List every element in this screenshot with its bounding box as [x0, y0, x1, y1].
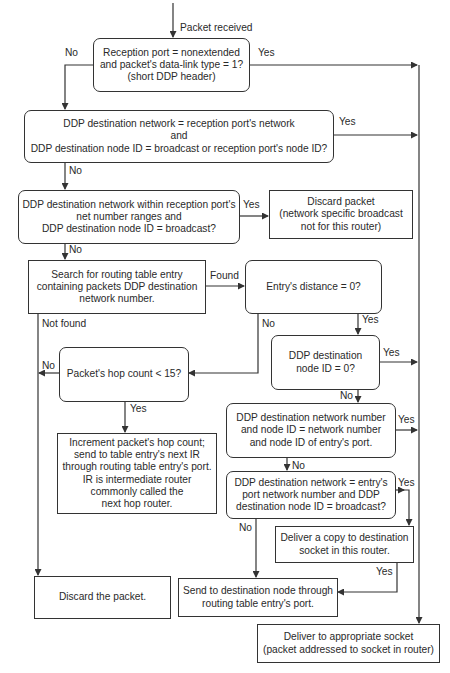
reception-port-check-node: Reception port = nonextended and packet'…: [93, 38, 250, 92]
edge-label-hop-yes: Yes: [130, 403, 147, 415]
edge-label-search-not-found: Not found: [42, 318, 86, 330]
entry-distance-check-node: Entry's distance = 0?: [245, 260, 382, 314]
deliver-copy-node: Deliver a copy to destination socket in …: [275, 526, 414, 563]
entry-port-match-check-node: DDP destination network number and node …: [226, 403, 396, 458]
edge-label-reception-no: No: [65, 47, 78, 59]
send-to-dest-node: Send to destination node through routing…: [178, 578, 338, 617]
edge-label-reception-yes: Yes: [258, 47, 275, 59]
dest-network-check-node: DDP destination network = reception port…: [24, 110, 334, 163]
edge-label-dest-network-yes: Yes: [339, 116, 356, 128]
edge-label-search-found: Found: [210, 270, 239, 282]
edge-label-hop-no: No: [42, 360, 55, 372]
hop-count-check-node: Packet's hop count < 15?: [59, 347, 189, 402]
edge-label-node-zero-yes: Yes: [383, 347, 400, 359]
edge-label-deliver-copy-yes: Yes: [376, 566, 393, 578]
edge-label-port-broadcast-yes: Yes: [398, 477, 415, 489]
edge-label-port-match-yes: Yes: [398, 414, 415, 426]
edge-label-port-broadcast-no: No: [239, 522, 252, 534]
search-routing-table-node: Search for routing table entry containin…: [28, 260, 206, 314]
net-range-broadcast-check-node: DDP destination network within reception…: [18, 190, 240, 244]
deliver-to-socket-node: Deliver to appropriate socket (packet ad…: [257, 624, 440, 663]
edge-label-net-range-no: No: [69, 244, 82, 256]
discard-packet-node: Discard the packet.: [34, 576, 171, 619]
increment-hop-count-node: Increment packet's hop count; send to ta…: [57, 433, 217, 514]
edge-label-node-zero-no: No: [340, 390, 353, 402]
edge-label-distance-no: No: [262, 318, 275, 330]
edge-label-distance-yes: Yes: [362, 314, 379, 326]
start-label: Packet received: [180, 22, 252, 34]
discard-network-broadcast-node: Discard packet (network specific broadca…: [269, 190, 413, 239]
dest-node-zero-check-node: DDP destination node ID = 0?: [271, 335, 380, 390]
edge-label-dest-network-no: No: [69, 165, 82, 177]
entry-port-broadcast-check-node: DDP destination network = entry's port n…: [226, 471, 396, 519]
edge-label-net-range-yes: Yes: [243, 199, 260, 211]
